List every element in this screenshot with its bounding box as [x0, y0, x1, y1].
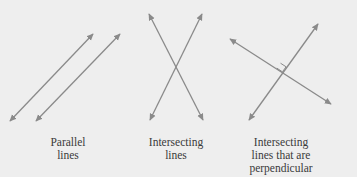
- label-line: Intersecting: [226, 136, 336, 149]
- label-line: lines that are: [226, 149, 336, 162]
- parallel-lines-figure: [10, 34, 120, 121]
- perpendicular-lines-figure: [230, 24, 331, 120]
- double-arrow-line: [230, 39, 331, 104]
- double-arrow-line: [249, 24, 318, 120]
- parallel-lines-label: Parallel lines: [13, 136, 123, 162]
- label-line: lines: [121, 149, 231, 162]
- intersecting-lines-label: Intersecting lines: [121, 136, 231, 162]
- label-line: perpendicular: [226, 162, 336, 175]
- double-arrow-line: [10, 34, 93, 121]
- label-line: lines: [13, 149, 123, 162]
- double-arrow-line: [36, 34, 120, 121]
- label-line: Parallel: [13, 136, 123, 149]
- label-line: Intersecting: [121, 136, 231, 149]
- perpendicular-lines-label: Intersecting lines that are perpendicula…: [226, 136, 336, 175]
- intersecting-lines-figure: [149, 14, 203, 120]
